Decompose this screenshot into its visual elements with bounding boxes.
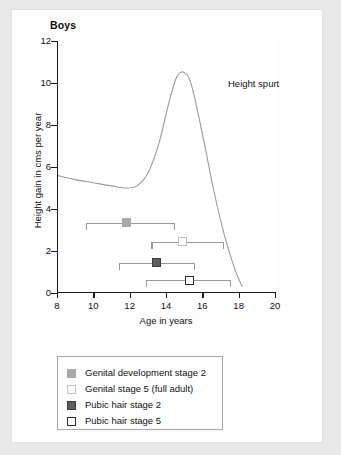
range-bar-cap-left [119, 263, 120, 270]
legend-label: Pubic hair stage 2 [85, 400, 161, 410]
legend-swatch-ph5 [67, 417, 76, 426]
x-tick [57, 292, 58, 298]
y-tick-label: 0 [9, 287, 51, 298]
y-axis-line [57, 41, 58, 293]
y-tick [51, 209, 57, 210]
x-tick-label: 8 [42, 300, 72, 311]
legend-item: Pubic hair stage 2 [67, 397, 161, 413]
range-bar-cap-left [151, 242, 152, 249]
x-tick-label: 14 [151, 300, 181, 311]
range-bar-cap-right [174, 223, 175, 230]
y-tick [51, 41, 57, 42]
height-spurt-annotation: Height spurt [228, 78, 279, 89]
range-bar-cap-left [146, 280, 147, 287]
range-bar-marker-gd5 [178, 237, 187, 246]
y-tick-label: 6 [9, 161, 51, 172]
range-bar-cap-right [230, 280, 231, 287]
range-bar-marker-ph5 [185, 276, 194, 285]
x-tick-label: 16 [187, 300, 217, 311]
legend-label: Genital stage 5 (full adult) [85, 384, 193, 394]
y-tick-label: 8 [9, 119, 51, 130]
x-axis-label: Age in years [57, 315, 275, 326]
x-tick [202, 292, 203, 298]
legend-label: Genital development stage 2 [85, 368, 206, 378]
range-bar-cap-right [223, 242, 224, 249]
legend-swatch-gd5 [67, 385, 76, 394]
y-axis-label: Height gain in cms per year [32, 71, 43, 271]
legend-swatch-ph2 [67, 401, 76, 410]
y-tick-label: 10 [9, 77, 51, 88]
x-tick [239, 292, 240, 298]
y-tick-label: 12 [9, 35, 51, 46]
velocity-curve-path [57, 72, 242, 287]
range-bar-line [86, 223, 175, 224]
range-bar [86, 223, 175, 230]
screenshot-root: Boys Height spurt 024681012 810121416182… [0, 0, 341, 455]
y-tick-label: 4 [9, 203, 51, 214]
y-tick-label: 2 [9, 245, 51, 256]
legend-item: Genital development stage 2 [67, 365, 206, 381]
range-bar [151, 242, 224, 249]
legend-swatch-gd2 [67, 369, 76, 378]
y-tick [51, 167, 57, 168]
y-tick [51, 125, 57, 126]
x-tick [93, 292, 94, 298]
x-tick-label: 10 [78, 300, 108, 311]
x-tick-label: 18 [224, 300, 254, 311]
range-bar-marker-ph2 [152, 258, 161, 267]
x-tick [130, 292, 131, 298]
x-tick-label: 20 [260, 300, 290, 311]
range-bar-marker-gd2 [122, 218, 131, 227]
y-tick [51, 83, 57, 84]
x-tick [166, 292, 167, 298]
y-tick [51, 251, 57, 252]
range-bar-cap-right [194, 263, 195, 270]
legend-item: Genital stage 5 (full adult) [67, 381, 193, 397]
x-tick [275, 292, 276, 298]
range-bar-line [151, 242, 224, 243]
x-tick-label: 12 [115, 300, 145, 311]
legend: Genital development stage 2Genital stage… [57, 356, 223, 430]
height-velocity-curve [0, 0, 341, 340]
range-bar-cap-left [86, 223, 87, 230]
legend-label: Pubic hair stage 5 [85, 416, 161, 426]
chart-area: Boys Height spurt 024681012 810121416182… [0, 0, 341, 340]
legend-item: Pubic hair stage 5 [67, 413, 161, 429]
